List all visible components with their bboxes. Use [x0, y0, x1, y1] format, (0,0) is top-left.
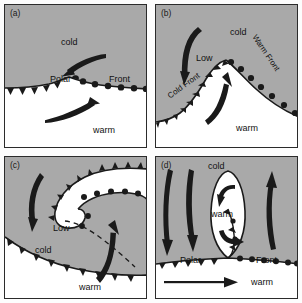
panel-c-warm-label: warm	[79, 282, 101, 292]
panel-a: (a) cold Polar Front warm	[4, 4, 147, 148]
panel-c-low-label: Low	[53, 223, 70, 233]
panel-b-tag: (b)	[161, 8, 171, 18]
panel-c-cold-label: cold	[35, 245, 52, 255]
panel-grid: (a) cold Polar Front warm	[0, 0, 302, 303]
panel-a-cold-label: cold	[61, 37, 78, 47]
warm-advection-arrow-d	[164, 277, 238, 288]
warm-air-flow-arrow-a	[45, 97, 100, 123]
panel-b-low-label: Low	[196, 53, 213, 63]
panel-a-polar-label: Polar	[50, 74, 71, 84]
panel-c: (c) Low cold warm	[4, 156, 147, 299]
panel-b-graphic	[156, 5, 298, 148]
panel-b: (b) cold Low Cold Front Warm Front warm	[155, 4, 298, 148]
panel-d-tag: (d)	[161, 160, 171, 170]
panel-a-tag: (a)	[10, 8, 20, 18]
panel-b-warm-label: warm	[236, 123, 258, 133]
panel-b-cold-label: cold	[230, 27, 247, 37]
panel-d: (d) cold warm Polar Front warm	[155, 156, 298, 299]
panel-c-tag: (c)	[10, 160, 20, 170]
panel-a-front-label: Front	[109, 74, 130, 84]
frontal-cyclone-lifecycle-figure: (a) cold Polar Front warm	[0, 0, 302, 303]
panel-a-warm-label: warm	[93, 125, 115, 135]
panel-d-warm-pocket-label: warm	[211, 209, 233, 219]
panel-d-graphic	[156, 157, 298, 299]
panel-d-front-label: Front	[256, 255, 277, 265]
panel-d-warm-bottom-label: warm	[251, 277, 273, 287]
panel-d-cold-label: cold	[208, 161, 225, 171]
panel-c-graphic	[5, 157, 147, 299]
panel-d-polar-label: Polar	[180, 255, 201, 265]
